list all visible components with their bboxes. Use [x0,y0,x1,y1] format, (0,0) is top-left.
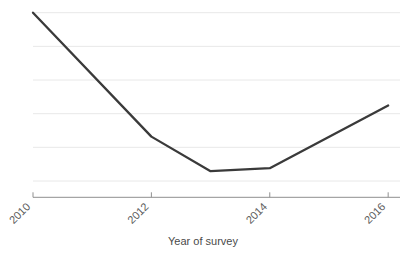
plot-background [33,12,400,197]
x-axis-tick-label: 2010 [7,200,33,226]
x-axis-title: Year of survey [168,235,238,247]
x-axis-tick-label: 2012 [125,200,151,226]
line-chart: 2010201220142016 Year of survey [0,0,406,265]
x-axis-tick-label: 2016 [362,200,388,226]
x-axis-tick-labels-group: 2010201220142016 [7,200,388,226]
x-axis-tick-label: 2014 [243,200,269,226]
chart-canvas: 2010201220142016 Year of survey [0,0,406,265]
